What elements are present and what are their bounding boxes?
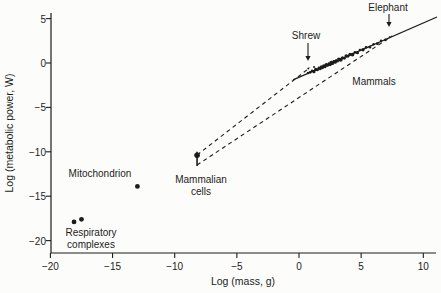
y-tick-label: −15	[29, 191, 46, 202]
annotation-mammals: Mammals	[352, 76, 395, 88]
y-tick-label: −20	[29, 235, 46, 246]
chart-figure: Log (metabolic power, W) Log (mass, g) E…	[0, 0, 441, 293]
annotation-mitochondrion: Mitochondrion	[69, 168, 132, 180]
y-tick-label: 0	[40, 58, 46, 69]
data-point	[79, 217, 84, 222]
data-point-mammal	[389, 36, 391, 38]
data-point-mammal	[356, 51, 359, 54]
data-point-mammal	[368, 46, 371, 49]
y-axis-title: Log (metabolic power, W)	[3, 73, 15, 192]
annotation-elephant: Elephant	[368, 2, 407, 14]
x-tick-label: −5	[231, 261, 242, 272]
elephant-arrowhead-icon	[386, 22, 391, 27]
data-point-mammal	[376, 42, 379, 45]
data-point-mammal	[365, 46, 368, 49]
cells-to-shrew-extrapolation	[197, 68, 310, 155]
x-tick-label: −15	[104, 261, 121, 272]
data-point-mammal	[380, 40, 382, 42]
data-point-mammal	[307, 72, 309, 74]
x-tick-label: 10	[418, 261, 429, 272]
x-axis-title: Log (mass, g)	[211, 275, 275, 287]
data-point-mammal	[361, 48, 364, 51]
data-point-mammal	[372, 43, 375, 46]
data-point-mammal	[351, 53, 355, 57]
cells-to-elephant-extrapolation	[197, 36, 392, 165]
x-tick-label: −20	[42, 261, 59, 272]
data-point-mammal	[307, 68, 309, 70]
annotation-mammalian-cells: Mammalian cells	[175, 174, 227, 198]
y-tick-label: −10	[29, 146, 46, 157]
data-point-mammal	[359, 49, 362, 52]
shrew-arrowhead-icon	[305, 56, 310, 61]
data-point	[135, 184, 140, 189]
data-point-mammal	[313, 66, 315, 68]
x-tick-label: −10	[166, 261, 183, 272]
annotation-shrew: Shrew	[292, 30, 320, 42]
x-tick-label: 5	[358, 261, 364, 272]
y-tick-label: 5	[40, 13, 46, 24]
y-tick-label: −5	[35, 102, 46, 113]
x-tick-label: 0	[296, 261, 302, 272]
data-point-mammal	[384, 39, 387, 42]
annotation-respiratory-complexes: Respiratory complexes	[65, 227, 116, 251]
axes	[51, 13, 436, 253]
data-point	[72, 220, 77, 225]
